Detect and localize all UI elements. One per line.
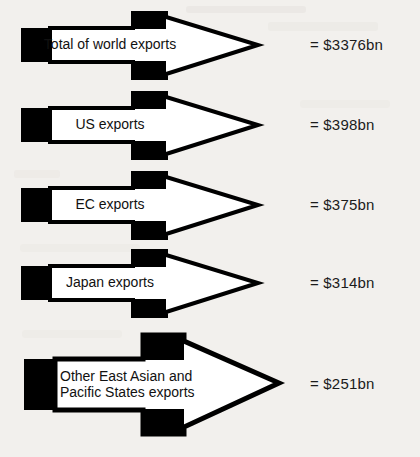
arrow-row-other-east-asian-pacific-exports: Other East Asian and Pacific States expo… <box>0 330 420 450</box>
arrow-value-other-east-asian-pacific-exports: = $251bn <box>310 375 375 392</box>
diagram-canvas: Total of world exports = $3376bn US expo… <box>0 0 420 457</box>
arrow-label-total-world-exports: Total of world exports <box>55 28 165 62</box>
arrow-label-line: Pacific States exports <box>60 385 195 401</box>
arrow-tail-block <box>21 108 52 142</box>
arrow-row-us-exports: US exports = $398bn <box>0 88 420 168</box>
arrow-label-other-east-asian-pacific-exports: Other East Asian and Pacific States expo… <box>60 359 184 410</box>
arrow-row-total-world-exports: Total of world exports = $3376bn <box>0 8 420 88</box>
arrow-row-ec-exports: EC exports = $375bn <box>0 168 420 248</box>
arrow-value-us-exports: = $398bn <box>310 116 375 133</box>
arrow-fletch-top <box>133 251 166 267</box>
arrow-fletch-bottom <box>133 221 166 238</box>
arrow-fletch-top <box>133 13 166 29</box>
arrow-fletch-bottom <box>133 141 166 158</box>
arrow-fletch-top <box>133 93 166 109</box>
arrow-value-ec-exports: = $375bn <box>310 196 375 213</box>
arrow-label-line: Japan exports <box>66 275 154 291</box>
arrow-row-japan-exports: Japan exports = $314bn <box>0 246 420 326</box>
arrow-fletch-bottom <box>133 61 166 78</box>
arrow-fletch-bottom <box>133 299 166 316</box>
arrow-label-line: Total of world exports <box>44 37 176 53</box>
arrow-fletch-bottom <box>143 409 184 434</box>
arrow-value-japan-exports: = $314bn <box>310 274 375 291</box>
arrow-label-line: Other East Asian and <box>60 369 192 385</box>
arrow-label-line: US exports <box>75 117 144 133</box>
arrow-tail-block <box>24 359 57 410</box>
arrow-label-us-exports: US exports <box>55 108 165 142</box>
arrow-label-line: EC exports <box>75 197 144 213</box>
arrow-label-japan-exports: Japan exports <box>55 266 165 300</box>
arrow-label-ec-exports: EC exports <box>55 188 165 222</box>
arrow-tail-block <box>21 266 52 300</box>
arrow-value-total-world-exports: = $3376bn <box>310 36 383 53</box>
arrow-tail-block <box>21 188 52 222</box>
arrow-fletch-top <box>143 335 184 360</box>
arrow-fletch-top <box>133 173 166 189</box>
